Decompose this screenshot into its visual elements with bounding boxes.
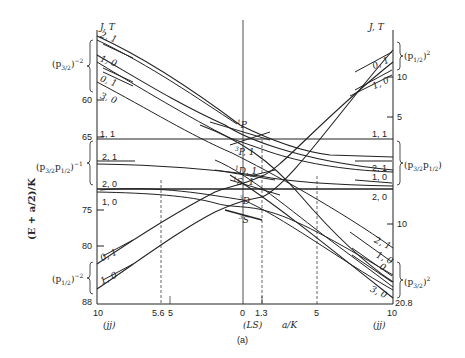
term-1S-1: 1S, 1: [233, 174, 254, 187]
left-tick-65: 65: [82, 132, 92, 142]
left-level-label: 1, 1: [100, 129, 115, 139]
bottom-tick-0: 0: [240, 308, 245, 318]
bottom-tick-5-left: 5: [168, 308, 173, 318]
term-3P-1: 3P, 1: [235, 144, 255, 157]
left-tick-88: 88: [82, 297, 92, 307]
left-tick-75: 75: [82, 205, 92, 215]
term-3D: 3D: [239, 193, 250, 206]
bottom-tick-1.3: 1.3: [255, 308, 268, 318]
left-level-label: 2, 0: [102, 179, 117, 189]
bottom-tick-10-right: 10: [387, 308, 397, 318]
right-tick-5: 5: [397, 112, 402, 122]
term-3S: 3S: [239, 212, 249, 225]
bottom-tick-5.6: 5.6: [152, 308, 165, 318]
right-jt-header: J, T: [369, 22, 384, 32]
y-axis-label: (E + a/2)/K: [26, 178, 37, 240]
right-level-label: 2, 0: [372, 192, 387, 202]
right-tick-10-top: 10: [397, 72, 407, 82]
left-level-label: 1, 0: [102, 197, 117, 207]
jj-left-label: (jj): [103, 320, 116, 330]
left-tick-60: 60: [82, 95, 92, 105]
group-right-p32-2: (p3/2)2: [404, 275, 430, 289]
bottom-tick-10-left: 10: [93, 308, 103, 318]
group-left-p32p12-minus1: (p3/2p1/2)−1: [36, 160, 83, 174]
group-right-p12-2: (p1/2)2: [404, 49, 430, 63]
group-left-p12-minus2: (p1/2)−2: [52, 272, 83, 286]
group-left-p32-minus2: (p3/2)−2: [52, 57, 83, 71]
group-right-p32p12: (p3/2p1/2): [404, 160, 442, 172]
jj-right-label: (jj): [373, 320, 386, 330]
bottom-tick-5-right: 5: [314, 308, 319, 318]
term-1P: 1P: [237, 117, 247, 130]
x-axis-label: a/K: [282, 320, 297, 330]
ls-label: (LS): [243, 320, 262, 330]
right-level-label: 1, 0: [372, 172, 387, 182]
right-tick-20.8: 20.8: [395, 298, 413, 308]
left-tick-80: 80: [82, 241, 92, 251]
left-level-label: 2, 1: [102, 152, 117, 162]
figure-caption: (a): [237, 335, 248, 345]
right-level-label: 1, 1: [372, 129, 387, 139]
right-tick-10-bottom: 10: [397, 219, 407, 229]
